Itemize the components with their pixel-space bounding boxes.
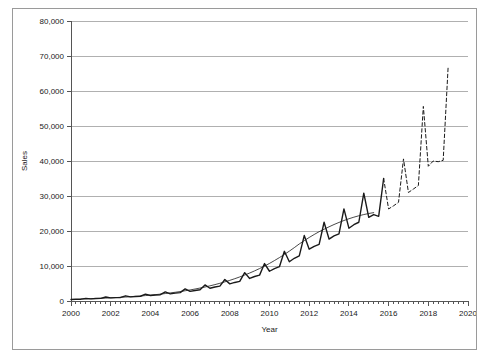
y-tick-label: 80,000: [40, 17, 65, 26]
y-axis-title: Sales: [20, 151, 29, 171]
y-tick-label: 20,000: [40, 227, 65, 236]
y-tick-label: 0: [60, 297, 65, 306]
x-tick-label: 2004: [142, 309, 160, 318]
legend-label-sales: Sales: [212, 347, 232, 349]
sales-forecast-chart: 010,00020,00030,00040,00050,00060,00070,…: [13, 9, 476, 349]
y-tick-label: 50,000: [40, 122, 65, 131]
x-tick-label: 2000: [62, 309, 80, 318]
x-tick-label: 2008: [221, 309, 239, 318]
legend-label-cma: CMA: [265, 347, 283, 349]
series-line-cma: [81, 213, 374, 299]
y-tick-label: 30,000: [40, 192, 65, 201]
x-tick-label: 2012: [300, 309, 318, 318]
x-tick-label: 2020: [459, 309, 476, 318]
x-tick-label: 2010: [261, 309, 279, 318]
x-tick-label: 2014: [340, 309, 358, 318]
x-tick-label: 2018: [419, 309, 437, 318]
series-line-est-sales: [384, 67, 449, 209]
x-axis-title: Year: [261, 325, 278, 334]
y-tick-label: 70,000: [40, 52, 65, 61]
y-tick-label: 40,000: [40, 157, 65, 166]
legend-label-est-sales: Est Sales: [309, 347, 343, 349]
x-tick-label: 2006: [181, 309, 199, 318]
y-tick-label: 60,000: [40, 87, 65, 96]
y-tick-label: 10,000: [40, 262, 65, 271]
x-tick-label: 2002: [102, 309, 120, 318]
x-tick-label: 2016: [380, 309, 398, 318]
chart-frame: 010,00020,00030,00040,00050,00060,00070,…: [12, 8, 477, 350]
